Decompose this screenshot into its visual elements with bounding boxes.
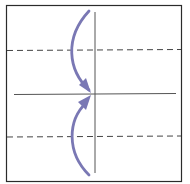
origami-diagram	[0, 0, 190, 184]
